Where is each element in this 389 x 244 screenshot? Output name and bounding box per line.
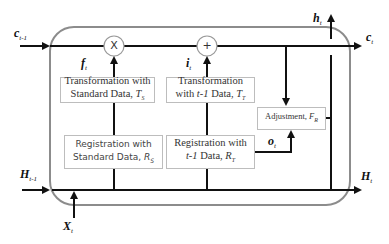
label-H-t: Ht bbox=[361, 169, 372, 185]
label-X-t: Xt bbox=[63, 219, 73, 235]
adjustment-output-line bbox=[326, 118, 331, 190]
registration-standard-box: Registration with Standard Data, RS bbox=[64, 135, 163, 169]
label-i-t: it bbox=[186, 56, 191, 72]
adjustment-box: Adjustment, FR bbox=[257, 107, 326, 130]
label-o-t: ot bbox=[268, 134, 276, 150]
add-symbol: + bbox=[197, 36, 217, 56]
box-line: Registration with bbox=[73, 138, 154, 151]
box-line: Transformation with bbox=[64, 74, 150, 87]
multiply-symbol: X bbox=[104, 36, 124, 56]
registration-prev-box: Registration with t-1 Data, RT bbox=[166, 135, 255, 169]
box-line: t-1 Data, RT bbox=[174, 149, 247, 167]
box-line: Registration with bbox=[174, 136, 247, 149]
label-h-t: ht bbox=[313, 11, 322, 27]
label-c-t: ct bbox=[366, 30, 373, 46]
label-c-prev: ct-1 bbox=[14, 26, 27, 42]
transformation-prev-box: Transformation with t-1 Data, TT bbox=[166, 77, 255, 103]
diagram-lines bbox=[0, 0, 389, 244]
transformation-standard-box: Transformation with Standard Data, TS bbox=[60, 77, 155, 103]
box-line: Adjustment, FR bbox=[265, 110, 318, 127]
diagram-canvas: X + ct-1 ct ht ft it ot Ht-1 Ht Xt Trans… bbox=[0, 0, 389, 244]
box-line: Standard Data, TS bbox=[64, 87, 150, 105]
box-line: with t-1 Data, TT bbox=[176, 87, 246, 105]
label-H-prev: Ht-1 bbox=[20, 167, 37, 183]
label-f-t: ft bbox=[81, 56, 87, 72]
box-line: Transformation bbox=[176, 74, 246, 87]
box-line: Standard Data, RS bbox=[73, 151, 154, 167]
